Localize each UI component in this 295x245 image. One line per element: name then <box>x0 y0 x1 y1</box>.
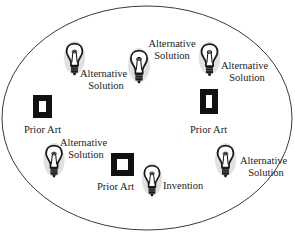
prior-art-square-icon <box>200 89 218 114</box>
alternative-solution-label: AlternativeSolution <box>80 68 132 92</box>
alternative-solution-lightbulb-icon <box>198 41 221 83</box>
label-line-1: Alternative <box>80 68 132 80</box>
prior-art-square-icon <box>33 95 52 118</box>
label-line-1: Alternative <box>146 38 198 50</box>
alternative-solution-label: AlternativeSolution <box>60 137 112 161</box>
concept-diagram: AlternativeSolutionAlternativeSolutionAl… <box>0 0 295 245</box>
prior-art-square-icon <box>111 153 134 176</box>
label-line-1: Alternative <box>60 137 112 149</box>
alternative-solution-label: AlternativeSolution <box>240 155 292 179</box>
label-line-2: Solution <box>221 72 273 84</box>
prior-art-label: Prior Art <box>24 124 61 136</box>
prior-art-label: Prior Art <box>97 181 134 193</box>
alternative-solution-label: AlternativeSolution <box>146 38 198 62</box>
label-line-2: Solution <box>146 50 198 62</box>
label-line-2: Solution <box>240 167 292 179</box>
solution-space-ellipse <box>0 0 295 245</box>
label-line-2: Solution <box>60 149 112 161</box>
prior-art-label: Prior Art <box>190 124 227 136</box>
label-line-1: Invention <box>163 180 203 192</box>
invention-lightbulb-icon <box>141 163 163 203</box>
label-line-1: Alternative <box>240 155 292 167</box>
label-line-2: Solution <box>80 80 132 92</box>
invention-label: Invention <box>163 180 203 192</box>
label-line-1: Alternative <box>221 60 273 72</box>
alternative-solution-label: AlternativeSolution <box>221 60 273 84</box>
alternative-solution-lightbulb-icon <box>213 143 238 184</box>
